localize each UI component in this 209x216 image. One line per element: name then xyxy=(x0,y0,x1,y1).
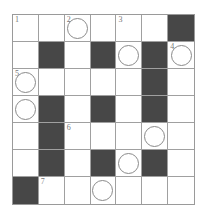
grid-cell[interactable] xyxy=(168,150,194,177)
circle-marker-icon xyxy=(118,45,139,66)
grid-cell[interactable]: 2 xyxy=(65,15,91,42)
grid-cell[interactable] xyxy=(91,123,117,150)
grid-cell[interactable] xyxy=(142,177,168,204)
black-cell xyxy=(142,69,168,96)
black-cell xyxy=(39,150,65,177)
black-cell xyxy=(13,177,39,204)
grid-cell[interactable] xyxy=(91,69,117,96)
grid-cell[interactable] xyxy=(142,123,168,150)
grid-cell[interactable] xyxy=(168,69,194,96)
clue-number: 6 xyxy=(67,123,71,132)
grid-cell[interactable] xyxy=(65,96,91,123)
grid-cell[interactable] xyxy=(168,96,194,123)
grid-cell[interactable] xyxy=(116,123,142,150)
grid-cell[interactable] xyxy=(65,42,91,69)
grid-cell[interactable] xyxy=(116,69,142,96)
grid-cell[interactable] xyxy=(39,15,65,42)
grid-cell[interactable] xyxy=(65,69,91,96)
grid-cell[interactable] xyxy=(65,177,91,204)
grid-cell[interactable] xyxy=(13,123,39,150)
black-cell xyxy=(39,42,65,69)
black-cell xyxy=(91,96,117,123)
grid-cell[interactable]: 3 xyxy=(116,15,142,42)
clue-number: 5 xyxy=(15,69,19,78)
grid-cell[interactable] xyxy=(13,96,39,123)
clue-number: 1 xyxy=(15,15,19,24)
grid-cell[interactable] xyxy=(116,177,142,204)
crossword-grid: 1234567 xyxy=(12,14,195,205)
black-cell xyxy=(142,96,168,123)
grid-cell[interactable] xyxy=(116,96,142,123)
circle-marker-icon xyxy=(118,153,139,174)
black-cell xyxy=(91,42,117,69)
grid-cell[interactable] xyxy=(168,123,194,150)
black-cell xyxy=(39,123,65,150)
grid-cell[interactable]: 4 xyxy=(168,42,194,69)
clue-number: 2 xyxy=(67,15,71,24)
clue-number: 4 xyxy=(170,42,174,51)
grid-cell[interactable] xyxy=(116,42,142,69)
grid-cell[interactable] xyxy=(142,15,168,42)
grid-cell[interactable] xyxy=(168,177,194,204)
black-cell xyxy=(91,150,117,177)
grid-cell[interactable] xyxy=(39,69,65,96)
circle-marker-icon xyxy=(92,180,113,201)
grid-cell[interactable] xyxy=(91,177,117,204)
clue-number: 7 xyxy=(41,177,45,186)
black-cell xyxy=(168,15,194,42)
circle-marker-icon xyxy=(144,126,165,147)
grid-cell[interactable] xyxy=(13,150,39,177)
grid-cell[interactable]: 6 xyxy=(65,123,91,150)
clue-number: 3 xyxy=(118,15,122,24)
grid-cell[interactable] xyxy=(116,150,142,177)
grid-cell[interactable] xyxy=(91,15,117,42)
grid-cell[interactable] xyxy=(13,42,39,69)
grid-cell[interactable]: 7 xyxy=(39,177,65,204)
black-cell xyxy=(39,96,65,123)
circle-marker-icon xyxy=(15,99,36,120)
black-cell xyxy=(142,42,168,69)
grid-cell[interactable]: 1 xyxy=(13,15,39,42)
black-cell xyxy=(142,150,168,177)
grid-cell[interactable] xyxy=(65,150,91,177)
grid-cell[interactable]: 5 xyxy=(13,69,39,96)
